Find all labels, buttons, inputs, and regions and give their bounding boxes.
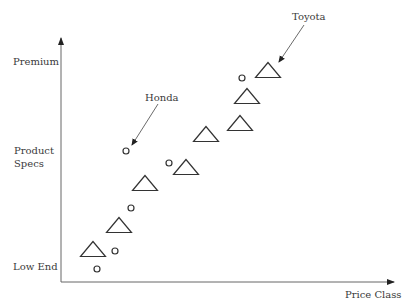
triangle-marker <box>235 89 260 104</box>
y-label-low-end: Low End <box>13 260 58 273</box>
triangle-marker <box>256 63 281 78</box>
circle-marker <box>94 266 100 272</box>
honda-arrow <box>132 104 158 145</box>
annotation-honda: Honda <box>145 91 179 104</box>
circle-marker <box>166 160 172 166</box>
circle-marker <box>123 148 129 154</box>
triangle-marker <box>174 160 199 175</box>
annotation-toyota: Toyota <box>292 10 326 23</box>
data-points <box>81 63 281 273</box>
triangle-marker <box>133 176 158 191</box>
triangle-marker <box>194 127 219 142</box>
positioning-diagram: Premium Product Specs Low End Price Clas… <box>0 0 409 307</box>
circle-marker <box>128 205 134 211</box>
y-label-product-specs-line1: Product <box>14 144 54 157</box>
triangle-marker <box>228 116 253 131</box>
circle-marker <box>239 75 245 81</box>
circle-marker <box>112 248 118 254</box>
toyota-arrow <box>279 25 304 62</box>
x-label-price-class: Price Class <box>345 288 401 301</box>
triangle-marker <box>107 218 132 233</box>
y-label-premium: Premium <box>13 55 59 68</box>
scatter-plot <box>0 0 409 307</box>
y-label-product-specs-line2: Specs <box>14 157 44 170</box>
triangle-marker <box>81 242 106 257</box>
